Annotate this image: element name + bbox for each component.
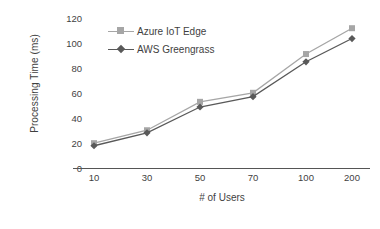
x-tick-label: 200 <box>332 172 372 183</box>
data-point-diamond-marker <box>302 58 309 65</box>
y-tick-label: 80 <box>52 64 82 74</box>
legend-label: AWS Greengrass <box>134 44 214 55</box>
x-axis-tick-labels: 10 30 50 70 100 200 <box>88 172 356 186</box>
y-tick-label: 100 <box>52 39 82 49</box>
legend-item-aws-greengrass: AWS Greengrass <box>108 40 238 58</box>
y-tick-label: 20 <box>52 139 82 149</box>
processing-time-line-chart: Processing Time (ms) 120 100 80 60 40 20… <box>0 0 380 229</box>
legend-label: Azure IoT Edge <box>134 26 206 37</box>
x-tick-label: 70 <box>233 172 273 183</box>
x-tick-label: 10 <box>74 172 114 183</box>
data-point-square-marker <box>349 25 355 31</box>
x-tick-label: 50 <box>180 172 220 183</box>
legend-diamond-marker-icon <box>108 43 134 55</box>
data-point-diamond-marker <box>348 35 355 42</box>
x-axis-line <box>73 168 370 169</box>
y-axis-title: Processing Time (ms) <box>29 4 40 164</box>
y-tick-label: 60 <box>52 89 82 99</box>
data-point-square-marker <box>303 51 309 57</box>
legend-item-azure-iot-edge: Azure IoT Edge <box>108 22 238 40</box>
y-tick-label: 40 <box>52 114 82 124</box>
x-axis-title: # of Users <box>88 192 356 203</box>
x-tick-label: 100 <box>286 172 326 183</box>
y-tick-label: 120 <box>52 14 82 24</box>
x-tick-label: 30 <box>127 172 167 183</box>
y-axis-tick-labels: 120 100 80 60 40 20 0 <box>52 0 82 229</box>
chart-legend: Azure IoT Edge AWS Greengrass <box>108 22 238 58</box>
legend-square-marker-icon <box>108 25 134 37</box>
